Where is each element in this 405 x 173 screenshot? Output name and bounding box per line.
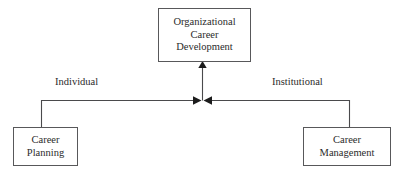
node-line-2: Planning	[27, 147, 64, 160]
edge-label-institutional: Institutional	[272, 76, 323, 87]
arrowhead-left-into-junction	[204, 96, 213, 104]
arrowhead-right-into-junction	[193, 96, 202, 104]
node-line-1: Career	[32, 134, 60, 147]
node-career-planning[interactable]: Career Planning	[13, 127, 78, 166]
career-development-diagram: Organizational Career Development Career…	[0, 0, 405, 173]
node-organizational-career-development[interactable]: Organizational Career Development	[158, 8, 251, 62]
node-line-3: Development	[176, 41, 233, 54]
node-career-management[interactable]: Career Management	[303, 127, 391, 166]
node-line-2: Management	[320, 147, 375, 160]
node-line-1: Organizational	[173, 16, 235, 29]
node-line-2: Career	[191, 29, 219, 42]
connector-career-management-to-junction	[212, 101, 350, 128]
arrowhead-up-into-top-box	[198, 61, 206, 68]
edge-label-individual: Individual	[55, 76, 98, 87]
connector-career-planning-to-junction	[42, 101, 194, 128]
node-line-1: Career	[333, 134, 361, 147]
